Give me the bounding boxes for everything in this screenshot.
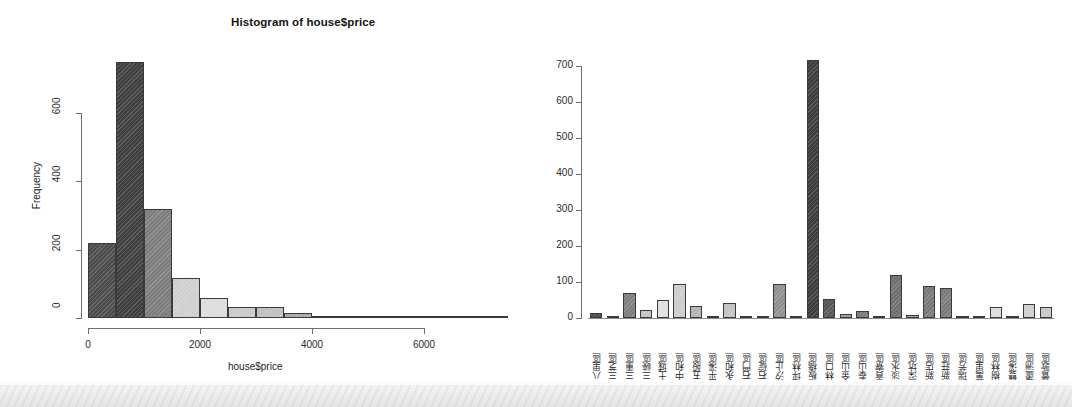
district-y-tick-label: 100 bbox=[543, 275, 573, 286]
histogram-bar bbox=[312, 316, 340, 318]
district-bar bbox=[623, 293, 635, 318]
district-category-label: 林口區 bbox=[825, 353, 834, 380]
histogram-bar bbox=[284, 313, 312, 318]
district-y-axis-line bbox=[581, 66, 582, 318]
figure-canvas: Histogram of house$price Frequency house… bbox=[0, 0, 1072, 407]
district-y-tick bbox=[576, 318, 582, 319]
histogram-bar bbox=[144, 209, 172, 318]
district-bar bbox=[890, 275, 902, 318]
district-bar bbox=[807, 60, 819, 318]
district-y-tick bbox=[576, 102, 582, 103]
district-category-label: 三重區 bbox=[625, 353, 634, 380]
district-bar bbox=[923, 286, 935, 318]
histogram-y-tick-label: 0 bbox=[51, 303, 62, 331]
district-category-label: 坪林區 bbox=[792, 353, 801, 380]
histogram-x-tick-label: 0 bbox=[63, 339, 113, 350]
histogram-x-axis-title: house$price bbox=[228, 361, 282, 372]
histogram-bar bbox=[172, 278, 200, 318]
district-y-tick bbox=[576, 66, 582, 67]
district-category-label: 三峽區 bbox=[642, 353, 651, 380]
histogram-y-tick-label: 600 bbox=[51, 97, 62, 125]
district-y-tick bbox=[576, 210, 582, 211]
histogram-panel: Histogram of house$price Frequency house… bbox=[0, 0, 540, 395]
district-y-tick bbox=[576, 246, 582, 247]
district-y-tick bbox=[576, 174, 582, 175]
histogram-bar bbox=[452, 316, 480, 318]
district-y-tick-label: 400 bbox=[543, 167, 573, 178]
district-y-tick-label: 600 bbox=[543, 95, 573, 106]
district-bar bbox=[940, 288, 952, 318]
district-category-label: 泰山區 bbox=[858, 353, 867, 380]
district-bar bbox=[657, 300, 669, 318]
histogram-x-tick-label: 6000 bbox=[399, 339, 449, 350]
district-category-label: 萬里區 bbox=[975, 353, 984, 380]
histogram-bar bbox=[116, 62, 144, 318]
district-category-label: 新莊區 bbox=[941, 353, 950, 380]
district-category-label: 蘆洲區 bbox=[1025, 353, 1034, 380]
histogram-y-tick bbox=[76, 318, 82, 319]
district-category-label: 瑞芳區 bbox=[958, 353, 967, 380]
district-bar bbox=[1040, 307, 1052, 319]
district-bar bbox=[856, 311, 868, 318]
histogram-x-tick-label: 4000 bbox=[287, 339, 337, 350]
district-plot-area bbox=[588, 52, 1054, 318]
district-y-tick-label: 300 bbox=[543, 203, 573, 214]
district-x-axis-line bbox=[588, 318, 1054, 319]
district-category-label: 平溪區 bbox=[708, 353, 717, 380]
district-category-label: 鶯歌區 bbox=[1041, 353, 1050, 380]
histogram-x-axis-line bbox=[88, 328, 424, 329]
district-y-tick-label: 500 bbox=[543, 131, 573, 142]
histogram-bar bbox=[340, 316, 368, 318]
district-category-label: 土城區 bbox=[658, 353, 667, 380]
district-category-label: 石碇區 bbox=[758, 353, 767, 380]
histogram-y-axis-title: Frequency bbox=[31, 146, 42, 226]
district-y-tick-label: 700 bbox=[543, 59, 573, 70]
district-bar bbox=[1023, 304, 1035, 318]
district-barchart-panel: 0100200300400500600700 八里區三芝區三重區三峽區土城區中和… bbox=[540, 0, 1072, 400]
histogram-bar bbox=[368, 316, 396, 318]
district-y-tick-label: 200 bbox=[543, 239, 573, 250]
histogram-x-tick bbox=[200, 328, 201, 334]
histogram-x-tick bbox=[424, 328, 425, 334]
histogram-y-axis-line bbox=[81, 113, 82, 318]
histogram-bar bbox=[256, 307, 284, 318]
district-category-label: 永和區 bbox=[725, 353, 734, 380]
district-category-label: 板橋區 bbox=[808, 353, 817, 380]
district-y-tick bbox=[576, 138, 582, 139]
district-bar bbox=[640, 310, 652, 318]
district-category-label: 貢寮區 bbox=[875, 353, 884, 380]
district-category-label: 深坑區 bbox=[908, 353, 917, 380]
district-bar bbox=[723, 303, 735, 318]
district-category-label: 雙溪區 bbox=[1008, 353, 1017, 380]
district-bar bbox=[673, 284, 685, 318]
district-y-tick-label: 0 bbox=[543, 311, 573, 322]
district-bar bbox=[773, 284, 785, 318]
district-category-label: 淡水區 bbox=[891, 353, 900, 380]
histogram-x-tick-label: 2000 bbox=[175, 339, 225, 350]
district-bar bbox=[690, 306, 702, 318]
histogram-y-tick bbox=[76, 181, 82, 182]
histogram-plot-area bbox=[88, 58, 508, 318]
histogram-y-tick bbox=[76, 113, 82, 114]
histogram-y-tick bbox=[76, 250, 82, 251]
district-bar bbox=[990, 307, 1002, 318]
histogram-title: Histogram of house$price bbox=[231, 16, 375, 28]
district-category-label: 石門區 bbox=[742, 353, 751, 380]
district-category-label: 汐止區 bbox=[775, 353, 784, 380]
histogram-bar bbox=[424, 316, 452, 318]
district-category-label: 三芝區 bbox=[608, 353, 617, 380]
district-category-label: 五股區 bbox=[692, 353, 701, 380]
histogram-y-tick-label: 400 bbox=[51, 166, 62, 194]
district-category-label: 中和區 bbox=[675, 353, 684, 380]
histogram-bar bbox=[200, 298, 228, 318]
district-category-label: 金山區 bbox=[841, 353, 850, 380]
district-category-label: 八里區 bbox=[592, 353, 601, 380]
histogram-x-tick bbox=[312, 328, 313, 334]
histogram-y-tick-label: 200 bbox=[51, 234, 62, 262]
histogram-bar bbox=[88, 243, 116, 318]
district-y-tick bbox=[576, 282, 582, 283]
district-category-label: 新店區 bbox=[925, 353, 934, 380]
histogram-bar bbox=[228, 307, 256, 318]
scan-band bbox=[0, 385, 1072, 407]
district-category-label: 樹林區 bbox=[991, 353, 1000, 380]
